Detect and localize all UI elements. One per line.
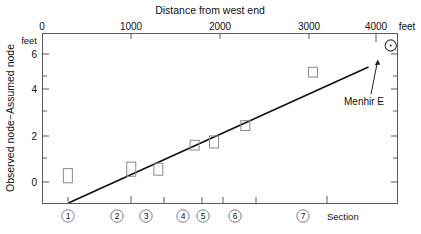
y-axis-title: Observed node−Assumed node bbox=[4, 44, 16, 192]
section-axis-label: Section bbox=[327, 211, 359, 222]
chart-figure: Distance from west end 0 1000 2000 3000 … bbox=[0, 0, 421, 234]
x-tick-label-4000: 4000 bbox=[365, 21, 388, 32]
y-axis-unit-label: feet bbox=[21, 35, 37, 46]
y-tick-label-4: 4 bbox=[31, 84, 37, 95]
x-axis-unit-label: feet bbox=[399, 21, 416, 32]
section-number-7: 7 bbox=[301, 211, 306, 221]
section-number-6: 6 bbox=[233, 211, 238, 221]
y-tick-label-2: 2 bbox=[31, 131, 37, 142]
x-tick-label-1000: 1000 bbox=[120, 21, 143, 32]
y-tick-label-0: 0 bbox=[31, 177, 37, 188]
x-tick-label-3000: 3000 bbox=[298, 21, 321, 32]
top-axis-title: Distance from west end bbox=[155, 4, 265, 16]
section-number-5: 5 bbox=[201, 211, 206, 221]
section-number-2: 2 bbox=[115, 211, 120, 221]
y-tick-label-6: 6 bbox=[31, 49, 37, 60]
menhir-e-annotation-label: Menhir E bbox=[344, 96, 384, 107]
x-tick-label-2000: 2000 bbox=[209, 21, 232, 32]
section-number-1: 1 bbox=[66, 211, 71, 221]
x-tick-label-0: 0 bbox=[39, 21, 45, 32]
chart-background bbox=[0, 0, 421, 234]
section-number-3: 3 bbox=[144, 211, 149, 221]
section-number-4: 4 bbox=[181, 211, 186, 221]
chart-canvas: Distance from west end 0 1000 2000 3000 … bbox=[0, 0, 421, 234]
